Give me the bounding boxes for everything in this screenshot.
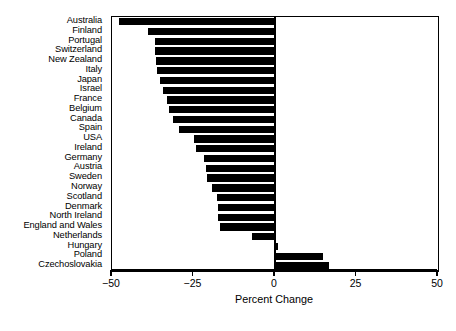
bar [156, 57, 275, 64]
bar [218, 204, 275, 211]
bar [155, 38, 275, 45]
bar [217, 194, 275, 201]
plot-frame [111, 16, 439, 272]
bar [275, 253, 323, 260]
bar [163, 87, 275, 94]
x-axis-tick [273, 270, 274, 276]
x-axis-tick-label: 50 [431, 277, 443, 289]
x-axis-title: Percent Change [111, 293, 437, 305]
bar [204, 155, 275, 162]
x-axis-tick [110, 270, 111, 276]
y-axis-label: Czechoslovakia [0, 260, 107, 270]
bar [157, 67, 275, 74]
x-axis-tick-label: −25 [184, 277, 202, 289]
plot-area [112, 17, 438, 271]
bar [119, 18, 275, 25]
bar [252, 233, 275, 240]
x-axis: −50−2502550 [111, 270, 437, 271]
x-axis-tick-label: 0 [271, 277, 277, 289]
bar [173, 116, 275, 123]
bar [155, 47, 275, 54]
x-axis-tick [436, 270, 437, 276]
bar [212, 184, 275, 191]
chart-figure: AustraliaFinlandPortugalSwitzerlandNew Z… [0, 0, 456, 331]
bar [206, 165, 275, 172]
x-axis-tick-label: 25 [350, 277, 362, 289]
zero-baseline [274, 17, 275, 271]
bar [167, 96, 275, 103]
x-axis-tick [355, 270, 356, 276]
bar [160, 77, 275, 84]
bar [220, 223, 275, 230]
x-axis-tick-label: −50 [102, 277, 120, 289]
bar [207, 174, 275, 181]
bar [194, 135, 275, 142]
x-axis-tick [192, 270, 193, 276]
bar [179, 126, 275, 133]
y-axis-category-labels: AustraliaFinlandPortugalSwitzerlandNew Z… [0, 16, 107, 270]
bar [148, 28, 275, 35]
bar [218, 214, 275, 221]
bar [169, 106, 275, 113]
bar [196, 145, 275, 152]
